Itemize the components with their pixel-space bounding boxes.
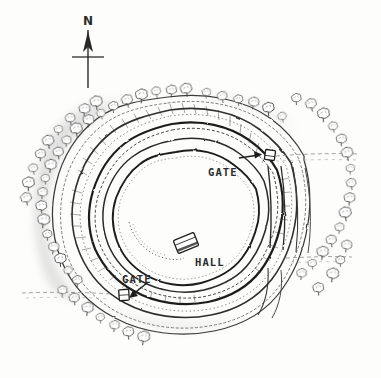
tree-icon (296, 268, 307, 281)
tree-canopy (296, 268, 307, 278)
tree-icon (72, 275, 82, 287)
tree-canopy (151, 86, 161, 95)
tree-trunk (40, 158, 41, 162)
tree-canopy (339, 206, 352, 217)
tree-icon (336, 256, 345, 267)
tree-trunk (341, 143, 342, 147)
gate-ne-arrow-icon (239, 151, 262, 159)
tree-canopy (346, 178, 357, 187)
tree-trunk (42, 224, 43, 228)
tree-canopy (313, 282, 324, 292)
tree-canopy (336, 134, 347, 143)
gate-label-northeast: GATE (208, 166, 238, 178)
tree-canopy (344, 192, 356, 202)
tree-canopy (108, 101, 118, 110)
tree-icon (123, 326, 134, 339)
rampart-ring-2 (103, 138, 269, 292)
tree-trunk (86, 312, 87, 316)
tree-icon (341, 147, 354, 162)
tree-canopy (326, 267, 339, 279)
tree-trunk (323, 118, 324, 122)
tree-canopy (346, 164, 355, 172)
tree-icon (339, 206, 352, 221)
tree-canopy (55, 253, 66, 263)
tree-canopy (308, 259, 317, 267)
tree-canopy (277, 112, 287, 121)
tree-trunk (141, 99, 142, 103)
tree-canopy (166, 85, 177, 94)
tree-icon (305, 98, 318, 112)
tree-icon (151, 86, 162, 98)
tree-trunk (58, 132, 59, 135)
tree-canopy (22, 177, 34, 188)
tree-trunk (41, 195, 42, 199)
tree-icon (20, 192, 33, 206)
tree-icon (317, 108, 329, 123)
tree-canopy (20, 192, 32, 203)
tree-canopy (305, 98, 317, 109)
tree-trunk (88, 124, 89, 128)
tree-icon (81, 302, 94, 317)
tree-canopy (263, 102, 274, 112)
tree-trunk (62, 293, 63, 296)
tree-trunk (350, 171, 351, 174)
tree-trunk (339, 230, 340, 233)
tree-trunk (66, 143, 67, 146)
tree-trunk (28, 187, 29, 191)
tree-trunk (331, 278, 332, 282)
tree-canopy (316, 246, 329, 257)
tree-icon (22, 177, 34, 192)
tree-trunk (318, 292, 319, 296)
tree-icon (336, 134, 347, 147)
tree-trunk (171, 94, 172, 98)
tree-canopy (137, 330, 150, 342)
tree-trunk (349, 202, 350, 206)
tree-canopy (72, 275, 82, 284)
tree-trunk (49, 169, 50, 173)
tree-canopy (54, 125, 63, 133)
tree-icon (326, 235, 337, 248)
tree-icon (291, 93, 301, 105)
tree-icon (96, 313, 105, 324)
tree-icon (316, 246, 329, 261)
tree-icon (346, 178, 357, 191)
tree-icon (334, 222, 344, 234)
tree-trunk (206, 95, 207, 98)
tree-canopy (336, 256, 345, 264)
tree-canopy (335, 222, 345, 231)
tree-canopy (291, 93, 301, 102)
tree-icon (326, 267, 340, 283)
tree-icon (28, 163, 39, 175)
hillfort-plan-figure: N GATE GATE HALL (0, 0, 381, 378)
tree-canopy (341, 147, 354, 158)
site-plan-drawing: N GATE GATE HALL (0, 0, 381, 378)
tree-icon (69, 293, 80, 306)
tree-canopy (328, 121, 338, 130)
tree-icon (343, 192, 355, 206)
rampart-ring-4 (72, 108, 297, 317)
tree-canopy (43, 230, 52, 238)
tree-trunk (142, 341, 143, 345)
tree-icon (328, 121, 339, 133)
tree-canopy (81, 302, 94, 313)
tree-trunk (113, 328, 114, 332)
tree-trunk (52, 251, 53, 255)
tree-icon (340, 239, 352, 253)
tree-trunk (321, 256, 322, 260)
north-arrow (72, 30, 104, 88)
tree-canopy (109, 320, 120, 330)
tree-canopy (35, 149, 46, 158)
gate-building-northeast (264, 149, 275, 160)
rampart-hachures (70, 103, 290, 303)
tree-trunk (84, 113, 85, 117)
tree-canopy (326, 235, 337, 245)
tree-canopy (96, 313, 105, 321)
tree-canopy (79, 103, 91, 113)
tree-canopy (123, 326, 134, 336)
tree-canopy (234, 95, 243, 103)
tree-canopy (317, 108, 329, 119)
rampart-ring-4-ditch (80, 114, 292, 311)
tree-trunk (128, 336, 129, 340)
tree-trunk (345, 249, 346, 253)
tree-canopy (180, 83, 193, 94)
